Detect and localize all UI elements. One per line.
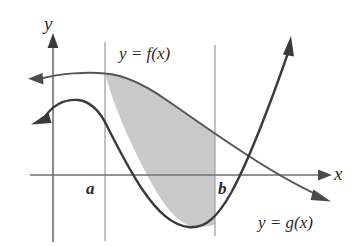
function-graph-figure: y x a b y = f(x) y = g(x) [0,0,362,246]
lower-bound-label-a: a [86,180,95,197]
y-axis-arrowhead [48,33,59,48]
y-axis-label: y [44,14,52,33]
upper-bound-label-b: b [218,180,227,197]
f-curve-label: y = f(x) [119,45,170,62]
x-axis-label: x [334,164,342,183]
x-axis-arrowhead [318,170,332,181]
graph-canvas [0,0,362,246]
f-curve-left-arrowhead [28,73,44,85]
y-axis-group [48,33,59,242]
g-curve-left-arrowhead [31,113,52,125]
f-curve-right-arrowhead [311,190,332,202]
g-curve-right-arrowhead [283,36,294,57]
g-curve-label: y = g(x) [258,214,313,231]
